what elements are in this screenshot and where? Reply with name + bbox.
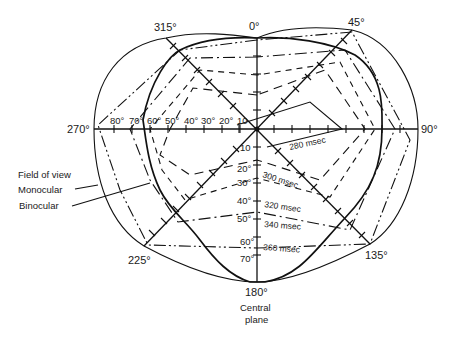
svg-text:10: 10: [240, 142, 251, 153]
legend-title: Field of view: [18, 169, 71, 180]
svg-text:70°: 70°: [240, 253, 255, 264]
label-0: 0°: [249, 20, 260, 32]
isochrone-320: [150, 62, 375, 200]
svg-text:80°: 80°: [110, 115, 125, 126]
svg-text:50°: 50°: [165, 115, 180, 126]
horizontal-scale-labels: 80° 70° 60° 50° 40° 30° 20° 10: [110, 115, 248, 126]
isochrone-360: [98, 32, 410, 248]
diagonal-315-135: [166, 38, 370, 244]
label-360-msec: 360 msec: [263, 242, 301, 255]
svg-text:30°: 30°: [201, 115, 216, 126]
label-45: 45°: [348, 16, 365, 28]
label-180: 180°: [245, 286, 268, 298]
label-225: 225°: [128, 254, 151, 266]
label-300-msec: 300 msec: [261, 169, 300, 190]
center-point: [255, 127, 260, 132]
label-320-msec: 320 msec: [264, 199, 303, 214]
legend-monocular: Monocular: [18, 184, 62, 195]
svg-text:40°: 40°: [184, 115, 199, 126]
isochrone-280: [237, 102, 342, 147]
legend-binocular: Binocular: [19, 200, 59, 211]
label-90: 90°: [421, 123, 438, 135]
central-plane-label-line2: plane: [245, 314, 268, 325]
label-340-msec: 340 msec: [264, 219, 302, 232]
svg-text:40°: 40°: [237, 195, 252, 206]
label-270: 270°: [67, 123, 90, 135]
legend: Field of view Monocular Binocular: [18, 169, 150, 211]
monocular-pointer: [75, 185, 98, 189]
binocular-pointer: [72, 183, 150, 206]
svg-text:60°: 60°: [147, 115, 162, 126]
central-plane-label-line1: Central: [240, 302, 271, 313]
svg-text:50°: 50°: [237, 213, 252, 224]
svg-text:60°: 60°: [240, 236, 255, 247]
svg-text:10: 10: [237, 115, 248, 126]
label-135: 135°: [365, 249, 388, 261]
label-315: 315°: [154, 21, 177, 33]
svg-text:70°: 70°: [129, 115, 144, 126]
svg-text:30°: 30°: [237, 177, 252, 188]
svg-text:20°: 20°: [219, 115, 234, 126]
svg-text:20°: 20°: [237, 163, 252, 174]
vertical-scale-labels: 10 20° 30° 40° 50° 60° 70°: [237, 142, 255, 264]
visual-field-diagram: 0° 45° 90° 135° 180° 225° 270° 315° 80° …: [0, 0, 457, 339]
